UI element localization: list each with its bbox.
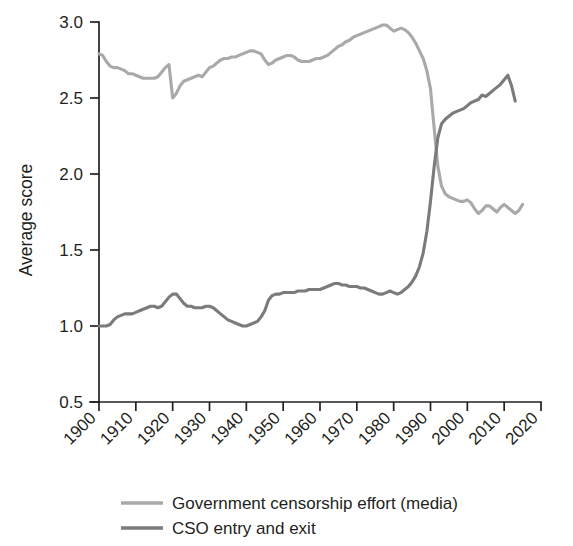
y-tick-label: 1.5 xyxy=(59,241,83,260)
legend-label: Government censorship effort (media) xyxy=(172,494,458,513)
chart-background xyxy=(0,0,573,546)
y-tick-label: 2.0 xyxy=(59,165,83,184)
y-tick-label: 2.5 xyxy=(59,89,83,108)
chart-svg: 0.51.01.52.02.53.0 190019101920193019401… xyxy=(0,0,573,546)
y-axis-title: Average score xyxy=(16,164,36,277)
y-tick-label: 3.0 xyxy=(59,13,83,32)
y-tick-label: 1.0 xyxy=(59,317,83,336)
y-tick-label: 0.5 xyxy=(59,393,83,412)
chart-figure: 0.51.01.52.02.53.0 190019101920193019401… xyxy=(0,0,573,546)
legend-label: CSO entry and exit xyxy=(172,519,316,538)
